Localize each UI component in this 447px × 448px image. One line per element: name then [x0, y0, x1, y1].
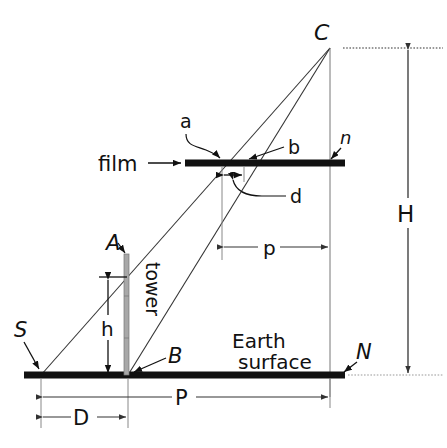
label-n-text: n: [340, 127, 351, 148]
label-B-leader: [134, 358, 166, 372]
ray-c-to-s: [41, 48, 330, 375]
label-ground-principal-point: S: [14, 318, 39, 369]
label-camera-station: C: [314, 20, 330, 45]
dimension-H-label: H: [397, 201, 414, 227]
dimension-d-label: d: [290, 185, 302, 207]
tower-object: [124, 254, 129, 375]
label-a-leader: [186, 134, 220, 158]
film-plane-bar: [185, 160, 345, 167]
dimension-d: d: [224, 175, 302, 207]
label-B-text: B: [168, 344, 182, 368]
label-A-text: A: [104, 231, 120, 255]
label-S-text: S: [14, 318, 27, 342]
label-S-leader: [24, 342, 39, 369]
diagram-canvas: d p h P D H: [0, 0, 447, 448]
label-film-text: film: [98, 152, 138, 176]
dimension-P-label: P: [175, 386, 188, 410]
label-N-leader: [344, 362, 357, 372]
label-image-point-a: a: [180, 110, 220, 158]
label-C-text: C: [314, 20, 330, 45]
label-N-text: N: [356, 340, 372, 364]
label-n-leader: [331, 148, 341, 159]
label-nadir-image: n: [331, 127, 351, 159]
label-earth-line2: surface: [238, 350, 312, 374]
relief-displacement-diagram: d p h P D H: [0, 0, 447, 448]
label-b-text: b: [288, 136, 300, 158]
dimension-h-label: h: [101, 317, 114, 341]
dimension-D: D: [43, 404, 126, 430]
dimension-p: p: [224, 235, 328, 260]
dimension-d-leader: [233, 180, 286, 196]
label-tower-top: A: [104, 231, 125, 255]
dimension-H: H: [397, 50, 414, 373]
label-earth-surface: Earth surface: [232, 329, 312, 374]
dimension-h: h: [98, 280, 119, 373]
label-tower-text: tower: [142, 262, 164, 316]
label-image-point-b: b: [249, 136, 300, 159]
dimension-D-label: D: [73, 406, 89, 430]
label-b-leader: [249, 147, 284, 159]
projection-rays: [41, 48, 330, 397]
label-a-text: a: [180, 110, 192, 132]
label-ground-nadir: N: [344, 340, 372, 372]
tower-bar: [124, 254, 129, 375]
label-film: film: [98, 152, 181, 176]
label-tower-base: B: [134, 344, 182, 372]
ray-c-to-b: [128, 48, 330, 375]
dimension-p-label: p: [263, 236, 276, 260]
